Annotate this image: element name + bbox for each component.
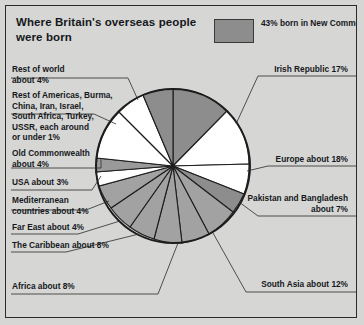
leader-irish (236, 76, 357, 124)
label-pakistan-bangladesh: Pakistan and Bangladesh about 7% (247, 193, 348, 214)
label-africa: Africa about 8% (12, 281, 75, 292)
pie-slices (96, 89, 250, 243)
label-old-commonwealth: Old Commonwealth about 4% (12, 148, 90, 169)
label-usa: USA about 3% (12, 177, 68, 188)
label-rest-of-world: Rest of world about 4% (12, 64, 65, 85)
leader-europe (247, 166, 357, 171)
label-mediterranean: Mediterranean countries about 4% (12, 195, 89, 216)
chart-frame: Where Britain's overseas people were bor… (5, 5, 357, 318)
label-south-asia: South Asia about 12% (261, 279, 348, 290)
label-far-east: Far East about 4% (12, 222, 84, 233)
label-caribbean: The Caribbean about 8% (12, 240, 109, 251)
label-rest-of-americas: Rest of Americas, Burma, China, Iran, Is… (12, 90, 113, 143)
label-europe: Europe about 18% (276, 154, 348, 165)
label-irish-republic: Irish Republic 17% (274, 64, 348, 75)
